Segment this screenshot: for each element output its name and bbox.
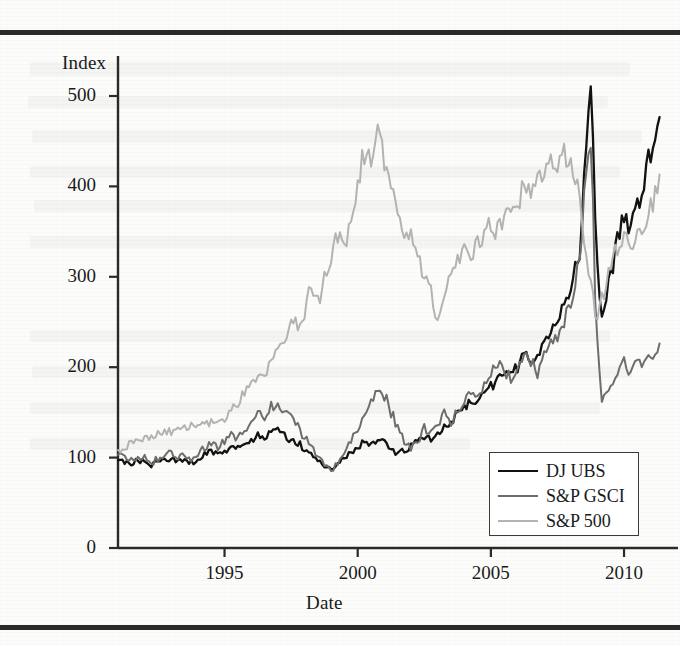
- legend-item: DJ UBS: [498, 458, 606, 484]
- y-tick-label: 400: [44, 174, 96, 196]
- legend-item: S&P GSCI: [498, 483, 625, 509]
- legend-item: S&P 500: [498, 508, 611, 534]
- y-tick-label: 200: [44, 355, 96, 377]
- y-axis-title: Index: [62, 52, 106, 74]
- series-line-dj-ubs: [118, 86, 660, 469]
- legend-label: DJ UBS: [546, 462, 606, 480]
- series-line-s-p-gsci: [118, 148, 660, 471]
- y-tick-label: 100: [44, 446, 96, 468]
- figure-root: Index Date 0100200300400500 199520002005…: [0, 0, 680, 645]
- y-tick-label: 300: [44, 265, 96, 287]
- legend-line-swatch-icon: [498, 495, 538, 497]
- legend-line-swatch-icon: [498, 520, 538, 522]
- chart-legend: DJ UBSS&P GSCIS&P 500: [489, 452, 639, 536]
- x-tick-label: 2000: [323, 562, 393, 584]
- line-chart-plot: [0, 0, 680, 645]
- x-axis-title: Date: [306, 592, 343, 614]
- legend-label: S&P GSCI: [546, 487, 625, 505]
- legend-line-swatch-icon: [498, 470, 538, 472]
- legend-label: S&P 500: [546, 512, 611, 530]
- x-tick-label: 1995: [190, 562, 260, 584]
- x-tick-label: 2010: [589, 562, 659, 584]
- x-tick-label: 2005: [456, 562, 526, 584]
- y-tick-label: 500: [44, 84, 96, 106]
- y-tick-label: 0: [44, 536, 96, 558]
